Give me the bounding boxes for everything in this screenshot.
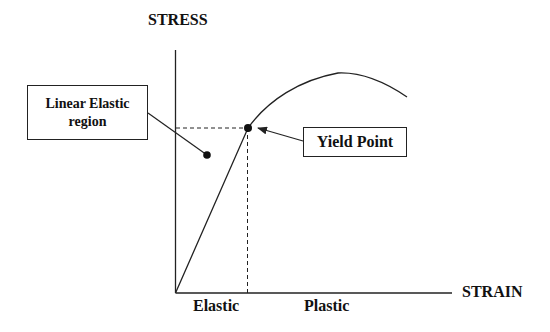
plastic-region-label: Plastic bbox=[304, 297, 349, 315]
yield-point-callout-label: Yield Point bbox=[317, 132, 393, 152]
yield-point-arrow bbox=[258, 128, 303, 141]
linear-elastic-pointer bbox=[148, 113, 207, 155]
stress-strain-curve bbox=[176, 73, 408, 293]
yield-point-marker bbox=[244, 124, 252, 132]
x-axis-label: STRAIN bbox=[462, 283, 522, 301]
yield-point-callout: Yield Point bbox=[303, 127, 407, 157]
linear-elastic-marker bbox=[203, 151, 211, 159]
linear-elastic-callout: Linear Elastic region bbox=[27, 85, 148, 140]
elastic-region-label: Elastic bbox=[193, 297, 239, 315]
linear-elastic-callout-line1: Linear Elastic bbox=[45, 95, 129, 113]
linear-elastic-callout-line2: region bbox=[69, 113, 107, 131]
y-axis-label: STRESS bbox=[148, 11, 208, 29]
